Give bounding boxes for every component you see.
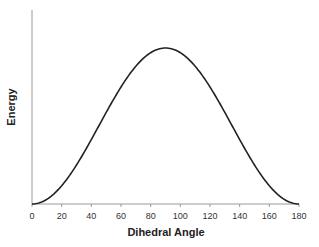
x-tick-label: 140 bbox=[232, 211, 247, 221]
axes bbox=[32, 10, 299, 204]
energy-curve bbox=[32, 48, 299, 204]
x-tick-label: 180 bbox=[291, 211, 306, 221]
x-tick-label: 120 bbox=[202, 211, 217, 221]
energy-chart: 020406080100120140160180 Dihedral Angle … bbox=[0, 0, 319, 247]
x-tick-label: 160 bbox=[262, 211, 277, 221]
x-axis-ticks: 020406080100120140160180 bbox=[29, 204, 306, 221]
x-tick-label: 0 bbox=[29, 211, 34, 221]
y-axis-title: Energy bbox=[5, 87, 17, 125]
x-tick-label: 60 bbox=[116, 211, 126, 221]
x-tick-label: 40 bbox=[86, 211, 96, 221]
x-tick-label: 80 bbox=[146, 211, 156, 221]
x-tick-label: 20 bbox=[57, 211, 67, 221]
x-tick-label: 100 bbox=[173, 211, 188, 221]
x-axis-title: Dihedral Angle bbox=[127, 226, 204, 238]
